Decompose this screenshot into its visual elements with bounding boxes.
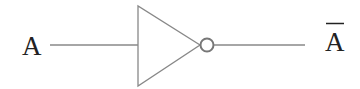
not-gate-diagram: A A xyxy=(0,0,360,89)
input-label: A xyxy=(22,31,42,61)
output-label: A xyxy=(325,27,345,57)
inverter-triangle-icon xyxy=(138,6,200,86)
inversion-bubble-icon xyxy=(201,39,214,52)
